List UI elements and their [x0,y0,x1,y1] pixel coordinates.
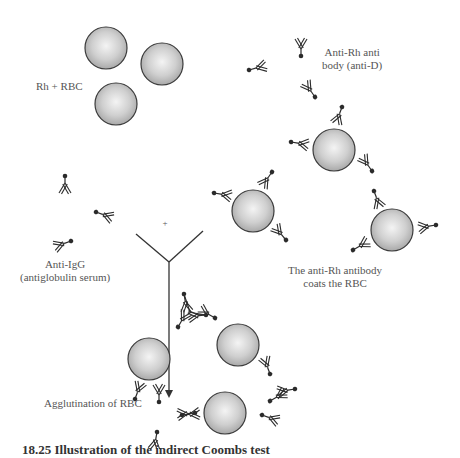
antibody-icon [417,219,439,234]
rh-positive-rbc-group [85,27,183,125]
rbc-cell [85,27,127,69]
anti-d-label: Anti-Rh anti body (anti-D) [322,46,382,72]
antibody-icon [52,235,75,253]
antibody-icon [368,187,386,210]
antibody-icon [245,60,268,77]
antibody-icon [295,38,307,58]
antibody-icon [348,236,372,257]
antibody-icon [92,206,115,224]
antibody-icon [178,291,193,313]
antibody-icon [300,79,321,103]
rh-rbc-label: Rh + RBC [36,80,83,93]
anti-igg-antibody-group [52,174,115,253]
agglutinated-rbc-cluster [128,291,298,449]
antibody-icon [211,187,233,202]
antibody-icon [153,384,165,404]
anti-igg-label-line1: Anti-IgG [20,258,110,271]
coated-rbc [348,187,439,257]
antibody-icon [257,167,278,191]
agglutination-label: Agglutination of RBC [44,397,142,410]
coated-rbc [288,103,379,177]
antibody-icon [288,136,310,151]
antibody-icon [177,407,198,421]
anti-igg-label: Anti-IgG (antiglobulin serum) [20,258,110,284]
coats-rbc-label-line1: The anti-Rh antibody [288,264,382,277]
anti-igg-label-line2: (antiglobulin serum) [20,271,110,284]
anti-d-label-line2: body (anti-D) [322,59,382,72]
figure-caption: 18.25 Illustration of the indirect Coomb… [22,442,270,458]
antibody-icon [258,409,281,427]
rbc-cell [141,43,183,85]
antibody-icon [270,222,292,245]
antibody-icon [59,174,71,194]
plus-sign: + [162,218,167,228]
anti-d-antibody-group [245,38,321,102]
coated-rbc [211,167,292,246]
coats-rbc-label-line2: coats the RBC [288,277,382,290]
coats-rbc-label: The anti-Rh antibody coats the RBC [288,264,382,290]
antibody-icon [258,355,276,378]
arrow-head-icon [165,390,173,398]
antibody-icon [357,153,378,177]
anti-d-label-line1: Anti-Rh anti [322,46,382,59]
antibody-icon [330,103,348,126]
rbc-cell [95,83,137,125]
